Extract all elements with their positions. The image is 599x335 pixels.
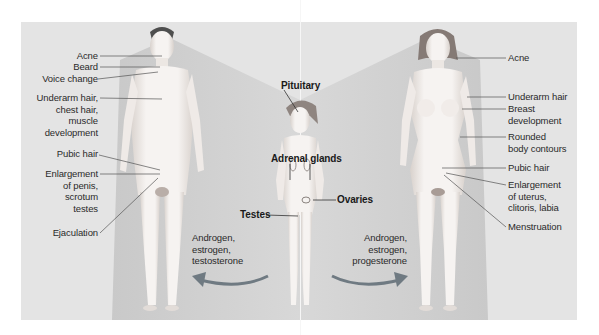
label-male-voice-change: Voice change [42,73,98,85]
label-female-breast-development: Breast development [508,103,561,126]
label-female-menstruation: Menstruation [508,221,562,233]
label-male-enlargement: Enlargement of penis, scrotum testes [45,168,98,214]
label-pituitary: Pituitary [281,80,320,92]
label-female-underarm-hair: Underarm hair [508,91,567,103]
label-female-pubic-hair: Pubic hair [508,162,549,174]
label-female-rounded-contours: Rounded body contours [508,131,566,154]
label-male-ejaculation: Ejaculation [53,227,98,239]
label-ovaries: Ovaries [337,194,373,206]
label-female-enlargement: Enlargement of uterus, clitoris, labia [508,179,561,214]
female-hormones-label: Androgen, estrogen, progesterone [352,232,407,267]
label-male-acne: Acne [77,50,98,62]
male-hormones-label: Androgen, estrogen, testosterone [192,232,243,267]
label-adrenal-glands: Adrenal glands [271,153,342,165]
label-male-pubic-hair: Pubic hair [57,148,98,160]
label-male-beard: Beard [73,61,98,73]
label-female-acne: Acne [508,52,529,64]
label-male-underarm-chest-muscle: Underarm hair, chest hair, muscle develo… [37,92,98,138]
label-testes: Testes [240,209,270,221]
